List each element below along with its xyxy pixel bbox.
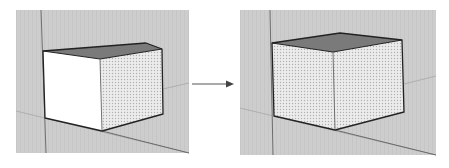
transition-arrow xyxy=(192,81,234,88)
cube-front-face-dotted xyxy=(272,43,335,130)
panel-before xyxy=(16,10,189,153)
figure-canvas xyxy=(0,0,449,168)
arrow-right-icon xyxy=(226,81,234,88)
panel-after xyxy=(240,10,436,155)
